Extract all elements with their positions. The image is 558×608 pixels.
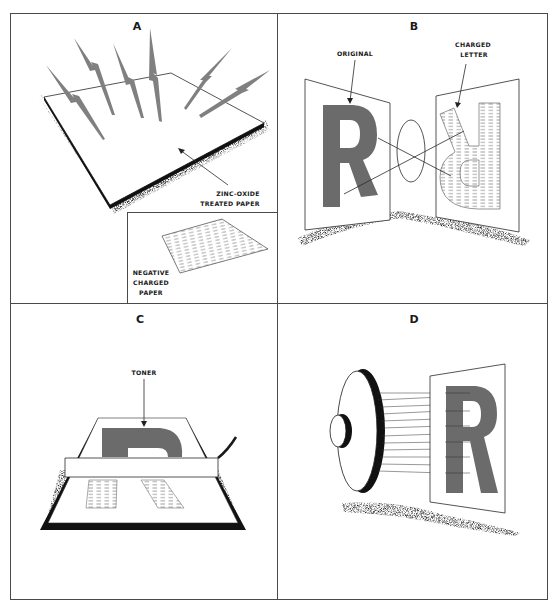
panel-a: A ZINC-OXIDE TREATED PAPER NE <box>38 20 278 304</box>
toner-cord <box>218 437 236 458</box>
charged-label-line2: LETTER <box>460 51 488 58</box>
negative-label-line2: CHARGED <box>133 279 169 286</box>
negative-label-line3: PAPER <box>139 289 163 296</box>
panel-a-letter: A <box>133 20 142 33</box>
panel-d: D <box>330 313 520 536</box>
panel-d-letter: D <box>409 313 418 326</box>
charged-label-line1: CHARGED <box>455 41 491 48</box>
charged-leg-left <box>86 480 117 508</box>
zinc-oxide-label-line2: TREATED PAPER <box>200 200 259 207</box>
negative-charged-inset: NEGATIVE CHARGED PAPER <box>128 213 278 304</box>
panel-b-letter: B <box>410 20 418 33</box>
negative-label-line1: NEGATIVE <box>133 269 170 276</box>
toner-label: TONER <box>131 369 156 376</box>
lamp-icon <box>330 369 385 493</box>
xerography-diagram: A ZINC-OXIDE TREATED PAPER NE <box>0 0 558 608</box>
panel-c: C TONER <box>40 313 246 530</box>
toner-bar <box>65 458 218 477</box>
lens <box>397 120 425 182</box>
original-label: ORIGINAL <box>337 50 373 57</box>
zinc-oxide-label-line1: ZINC-OXIDE <box>216 190 260 197</box>
panel-c-letter: C <box>136 313 144 326</box>
panel-b: B ORIGINAL CHARGED LETTER <box>298 20 530 246</box>
